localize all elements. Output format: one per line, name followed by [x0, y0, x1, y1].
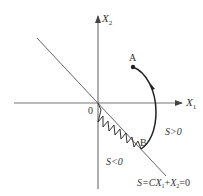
x1-axis-label: X1 [185, 96, 197, 111]
point-a-dot [131, 65, 135, 69]
region-negative-label: S<0 [106, 156, 123, 167]
region-positive-label: S>0 [165, 126, 182, 137]
sliding-mode-phase-diagram: X2 X1 0 A B S>0 S<0 S=CX1+X2=0 [0, 0, 203, 196]
point-b-label: B [140, 137, 147, 148]
x2-axis-label: X2 [101, 12, 113, 27]
point-a-label: A [129, 52, 137, 63]
switching-line-equation: S=CX1+X2=0 [137, 177, 190, 189]
origin-label: 0 [88, 105, 93, 116]
switching-line [37, 38, 166, 176]
